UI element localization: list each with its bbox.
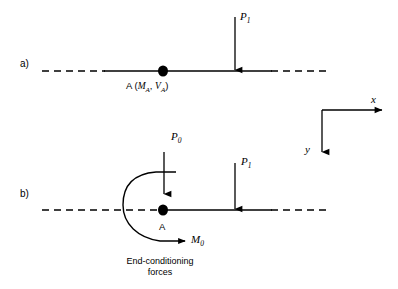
panel-b-label: b): [20, 188, 29, 199]
panel-a-load-label-p1: P1: [240, 10, 250, 25]
panel-b-load-subscript-p1: 1: [248, 161, 252, 170]
panel-b-moment-symbol-m0: M: [191, 233, 200, 245]
beam-free-body-diagram-figure: a) P1 A (MA, VA) x y b) P0 P1 A M0 End-c…: [0, 0, 398, 289]
panel-b-caption: End-conditioning forces: [110, 256, 210, 278]
panel-b-load-label-p0: P0: [171, 130, 181, 145]
axis-label-y: y: [305, 143, 310, 155]
panel-a-node-moment-symbol: MA: [138, 81, 150, 91]
panel-b-load-subscript-p0: 0: [178, 136, 182, 145]
panel-b-caption-line-1: End-conditioning: [110, 256, 210, 267]
panel-b-geometry: [42, 152, 326, 241]
panel-b-moment-arc-m0: [123, 172, 185, 241]
panel-a-node-shear-symbol: VA: [155, 81, 165, 91]
axis-label-x: x: [371, 93, 376, 105]
panel-b-load-label-p1: P1: [241, 155, 251, 170]
panel-b-node-point-a: [158, 204, 168, 215]
panel-b-node-label: A: [159, 221, 165, 232]
panel-a-load-symbol-p1: P: [240, 10, 247, 22]
panel-b-caption-line-2: forces: [110, 267, 210, 278]
panel-b-moment-subscript-m0: 0: [200, 239, 204, 248]
panel-a-geometry: [42, 17, 326, 77]
panel-a-node-label: A (MA, VA): [126, 80, 168, 94]
panel-b-moment-label-m0: M0: [191, 233, 204, 248]
panel-a-node-point-a: [158, 65, 168, 76]
panel-b-load-symbol-p1: P: [241, 155, 248, 167]
panel-a-node-close-paren: ): [165, 80, 168, 91]
panel-a-moment-letter: M: [138, 81, 146, 91]
panel-a-label: a): [20, 58, 29, 69]
panel-a-load-subscript-p1: 1: [247, 16, 251, 25]
panel-b-load-symbol-p0: P: [171, 130, 178, 142]
coordinate-axes: [322, 110, 382, 152]
